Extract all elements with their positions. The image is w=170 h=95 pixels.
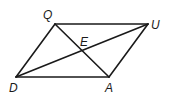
label-D: D	[9, 81, 18, 95]
label-U: U	[151, 18, 160, 32]
label-Q: Q	[43, 8, 52, 22]
parallelogram-diagram: Q U E D A	[0, 0, 170, 95]
label-E: E	[80, 35, 89, 49]
label-A: A	[104, 81, 113, 95]
